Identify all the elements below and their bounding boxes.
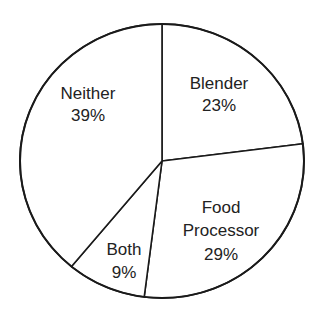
label-food-processor-line2: Processor (183, 221, 260, 240)
pie-chart: Blender 23% Food Processor 29% Both 9% N… (0, 0, 317, 317)
label-food-processor-line1: Food (202, 198, 241, 217)
label-food-processor-pct: 29% (204, 245, 238, 264)
label-neither-pct: 39% (71, 106, 105, 125)
label-both-name: Both (107, 240, 142, 259)
label-blender-name: Blender (190, 74, 249, 93)
label-neither-name: Neither (61, 84, 116, 103)
pie-slices (20, 24, 304, 298)
label-blender-pct: 23% (202, 96, 236, 115)
label-both-pct: 9% (112, 263, 137, 282)
